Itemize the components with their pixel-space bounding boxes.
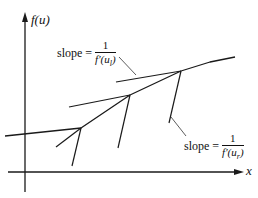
y-axis-label: f(u) [31,13,50,26]
slope-right-denominator: f′(ur) [222,146,243,161]
x-axis-arrow-icon [234,169,244,175]
slope-right-annotation: slope = 1 f′(ur) [184,133,244,161]
slope-left-denominator-close: ) [112,53,116,65]
descending-line-2 [118,95,130,148]
slope-right-denominator-close: ) [240,146,244,158]
slope-left-fraction: 1 f′(ul) [95,40,116,68]
y-axis-arrow-icon [22,12,28,22]
slope-left-denominator: f′(ul) [95,53,116,68]
slope-right-numerator: 1 [222,133,243,146]
slope-right-fraction: 1 f′(ur) [222,133,243,161]
diagram-canvas [0,0,258,198]
descending-line-3 [169,71,181,123]
slope-left-numerator: 1 [95,40,116,53]
x-axis-label: x [246,164,252,177]
slope-right-denominator-main: f′(u [222,146,237,158]
slope-left-denominator-main: f′(u [95,53,110,65]
y-axis-label-text: f(u) [31,12,50,27]
slope-left-prefix: slope = [57,46,92,60]
leader-line-left [119,57,136,75]
slope-left-annotation: slope = 1 f′(ul) [57,40,116,68]
tangent-line-3 [116,71,181,82]
slope-right-prefix: slope = [184,139,219,153]
